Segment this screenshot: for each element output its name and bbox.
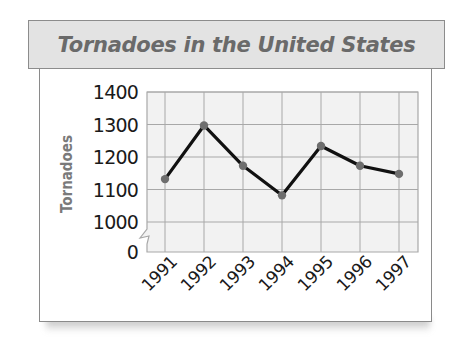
- x-tick-label: 1992: [177, 252, 220, 295]
- x-tick-label: 1994: [255, 252, 298, 295]
- x-tick-label: 1996: [333, 252, 376, 295]
- x-tick-label: 1995: [294, 252, 337, 295]
- y-tick-label: 0: [127, 241, 138, 263]
- data-point: [161, 175, 169, 183]
- grid: [140, 92, 418, 252]
- plot-area: 010001100120013001400 199119921993199419…: [0, 0, 458, 349]
- data-point: [356, 162, 364, 170]
- data-point: [200, 121, 208, 129]
- grid-background: [140, 92, 418, 252]
- x-tick-label: 1997: [372, 252, 415, 295]
- x-tick-label: 1991: [138, 252, 181, 295]
- data-point: [317, 142, 325, 150]
- x-tick-labels: 1991199219931994199519961997: [138, 252, 415, 295]
- y-tick-label: 1000: [93, 211, 138, 233]
- y-tick-label: 1400: [93, 81, 138, 103]
- data-point: [395, 170, 403, 178]
- y-tick-label: 1200: [93, 146, 138, 168]
- x-tick-label: 1993: [216, 252, 259, 295]
- data-point: [239, 162, 247, 170]
- y-tick-label: 1300: [93, 114, 138, 136]
- y-tick-label: 1100: [93, 179, 138, 201]
- data-point: [278, 191, 286, 199]
- y-tick-labels: 010001100120013001400: [93, 81, 138, 263]
